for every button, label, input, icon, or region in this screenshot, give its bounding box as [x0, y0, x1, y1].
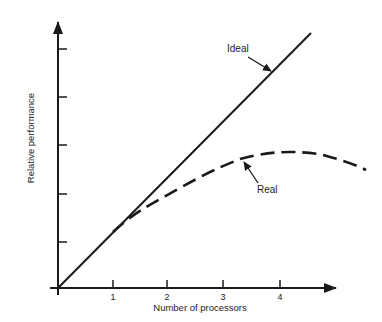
x-tick-label-3: 3 — [220, 292, 225, 302]
x-tick-label-2: 2 — [164, 292, 169, 302]
x-tick-label-1: 1 — [110, 292, 115, 302]
x-ticks — [113, 280, 280, 288]
ideal-line — [58, 33, 311, 288]
x-axis-label: Number of processors — [153, 302, 247, 313]
x-tick-label-4: 4 — [277, 292, 282, 302]
real-label: Real — [257, 184, 278, 195]
y-ticks — [58, 49, 67, 242]
y-axis-label: Relative performance — [25, 93, 36, 183]
performance-chart: 1 2 3 4 Number of processors Relative pe… — [0, 0, 382, 322]
real-curve — [113, 152, 366, 232]
real-arrow — [244, 162, 258, 183]
ideal-label: Ideal — [227, 43, 249, 54]
ideal-arrow — [248, 57, 271, 71]
